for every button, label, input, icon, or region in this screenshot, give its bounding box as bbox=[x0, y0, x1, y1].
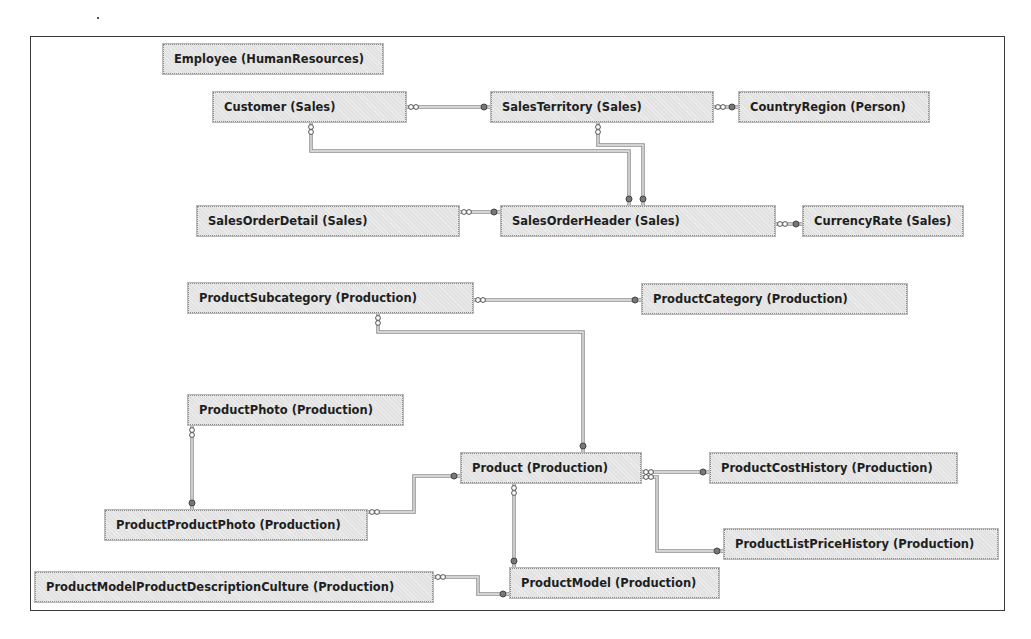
entity-label: SalesOrderHeader (Sales) bbox=[512, 214, 680, 228]
entity-label: ProductModel (Production) bbox=[521, 576, 696, 590]
stray-dot bbox=[97, 17, 99, 19]
entity-salesorderdetail[interactable]: SalesOrderDetail (Sales) bbox=[197, 206, 459, 236]
entity-label: SalesOrderDetail (Sales) bbox=[208, 214, 367, 228]
entity-label: CurrencyRate (Sales) bbox=[814, 214, 951, 228]
entity-customer[interactable]: Customer (Sales) bbox=[213, 92, 406, 122]
entity-label: ProductCostHistory (Production) bbox=[721, 461, 933, 475]
entity-label: ProductModelProductDescriptionCulture (P… bbox=[46, 580, 394, 594]
entity-product[interactable]: Product (Production) bbox=[461, 453, 641, 483]
entity-salesorderheader[interactable]: SalesOrderHeader (Sales) bbox=[501, 206, 775, 236]
entity-salesterritory[interactable]: SalesTerritory (Sales) bbox=[491, 92, 713, 122]
entity-label: Customer (Sales) bbox=[224, 100, 335, 114]
entity-label: CountryRegion (Person) bbox=[750, 100, 906, 114]
entity-label: ProductCategory (Production) bbox=[653, 292, 848, 306]
entity-label: Employee (HumanResources) bbox=[174, 52, 364, 66]
entity-label: Product (Production) bbox=[472, 461, 608, 475]
entity-productsubcategory[interactable]: ProductSubcategory (Production) bbox=[188, 283, 473, 313]
entity-productproductphoto[interactable]: ProductProductPhoto (Production) bbox=[105, 510, 367, 540]
entity-employee[interactable]: Employee (HumanResources) bbox=[163, 44, 383, 74]
entity-label: ProductProductPhoto (Production) bbox=[116, 518, 341, 532]
entity-productmodelproductdescriptionculture[interactable]: ProductModelProductDescriptionCulture (P… bbox=[35, 572, 433, 602]
entity-label: ProductListPriceHistory (Production) bbox=[735, 537, 974, 551]
entity-productmodel[interactable]: ProductModel (Production) bbox=[510, 568, 719, 598]
entity-countryregion[interactable]: CountryRegion (Person) bbox=[739, 92, 929, 122]
entity-label: ProductPhoto (Production) bbox=[199, 403, 373, 417]
entity-label: SalesTerritory (Sales) bbox=[502, 100, 642, 114]
entity-productlistpricehistory[interactable]: ProductListPriceHistory (Production) bbox=[724, 529, 998, 559]
entity-productcosthistory[interactable]: ProductCostHistory (Production) bbox=[710, 453, 957, 483]
entity-currencyrate[interactable]: CurrencyRate (Sales) bbox=[803, 206, 963, 236]
entity-productphoto[interactable]: ProductPhoto (Production) bbox=[188, 395, 403, 425]
entity-productcategory[interactable]: ProductCategory (Production) bbox=[642, 284, 907, 314]
entity-label: ProductSubcategory (Production) bbox=[199, 291, 417, 305]
